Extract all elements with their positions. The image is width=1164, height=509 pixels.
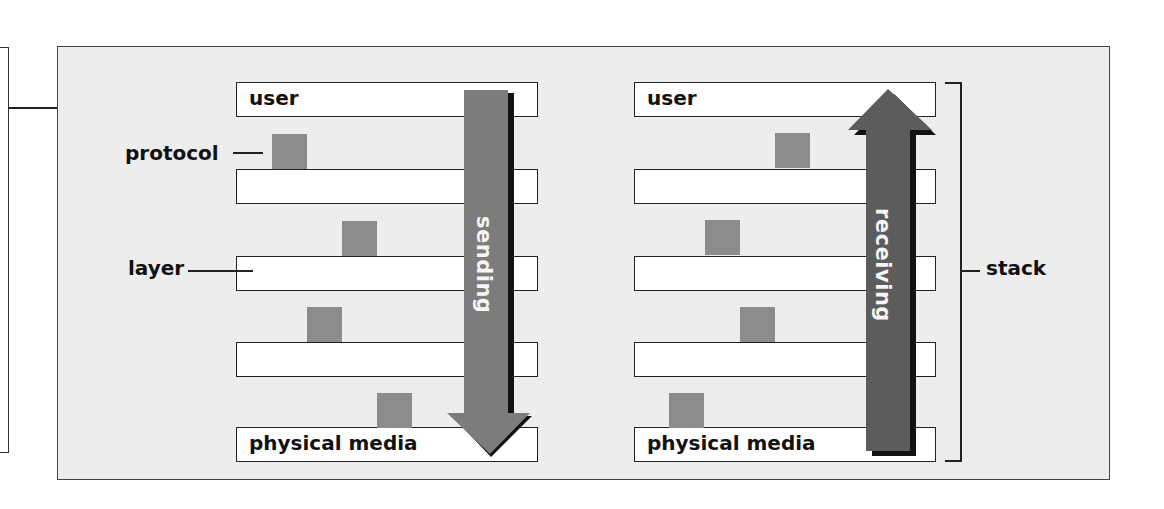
protocol-square	[377, 393, 412, 428]
protocol-leader-line	[233, 152, 263, 154]
protocol-square	[705, 220, 740, 255]
layer-label: physical media	[647, 431, 816, 455]
layer-label: user	[647, 86, 697, 110]
protocol-square	[775, 133, 810, 168]
protocol-square	[740, 307, 775, 342]
protocol-label: protocol	[125, 141, 219, 165]
layer-label: physical media	[249, 431, 418, 455]
layer-leader-line	[188, 270, 253, 272]
receiving-label: receiving	[871, 208, 895, 322]
stack-bracket	[945, 82, 962, 462]
layer-label: user	[249, 86, 299, 110]
protocol-square	[272, 134, 307, 169]
protocol-square	[342, 221, 377, 256]
stack-label: stack	[986, 256, 1046, 280]
protocol-square	[669, 393, 704, 428]
connector-line	[8, 107, 58, 109]
stack-leader-line	[962, 270, 980, 272]
protocol-square	[307, 307, 342, 342]
layer-label-callout: layer	[128, 256, 184, 280]
sending-label: sending	[472, 216, 496, 313]
